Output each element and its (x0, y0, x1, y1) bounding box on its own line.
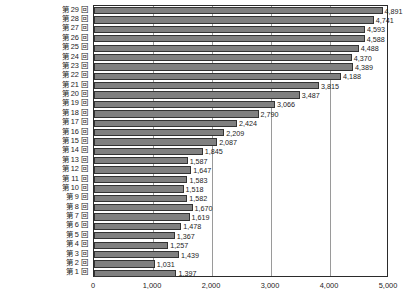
bar (94, 101, 275, 108)
bar (94, 63, 353, 70)
bar-row: 3,066 (94, 101, 387, 108)
bar (94, 138, 217, 145)
category-label: 第 15 回 (62, 137, 88, 144)
bar-value-label: 4,891 (383, 6, 403, 15)
bar-row: 1,478 (94, 223, 387, 230)
bar-row: 3,815 (94, 82, 387, 89)
bar (94, 45, 359, 52)
category-label: 第 1 回 (66, 268, 88, 275)
bar (94, 110, 259, 117)
category-label: 第 29 回 (62, 6, 88, 13)
bar-value-label: 4,741 (374, 16, 394, 25)
bar-row: 1,397 (94, 270, 387, 277)
category-label: 第 24 回 (62, 53, 88, 60)
bar (94, 120, 237, 127)
category-label: 第 22 回 (62, 71, 88, 78)
x-tick-label: 3,000 (261, 281, 280, 290)
bar-row: 1,583 (94, 176, 387, 183)
x-tick-label: 0 (91, 281, 95, 290)
category-label: 第 23 回 (62, 62, 88, 69)
bar-row: 4,370 (94, 54, 387, 61)
category-label: 第 28 回 (62, 15, 88, 22)
category-label: 第 21 回 (62, 81, 88, 88)
bar (94, 204, 193, 211)
bar (94, 223, 181, 230)
bar-value-label: 2,209 (224, 128, 244, 137)
category-label: 第 16 回 (62, 128, 88, 135)
category-label: 第 14 回 (62, 146, 88, 153)
bar-value-label: 1,587 (188, 156, 208, 165)
bar-row: 1,670 (94, 204, 387, 211)
x-tick-label: 5,000 (379, 281, 398, 290)
bar-value-label: 4,488 (359, 44, 379, 53)
bar (94, 232, 175, 239)
bar-value-label: 2,087 (217, 137, 237, 146)
bar-row: 1,031 (94, 260, 387, 267)
bar (94, 54, 352, 61)
bar-value-label: 2,424 (237, 119, 257, 128)
bar-value-label: 1,397 (176, 269, 196, 278)
bar-value-label: 3,815 (319, 81, 339, 90)
bar-row: 1,582 (94, 195, 387, 202)
category-label: 第 10 回 (62, 184, 88, 191)
category-label: 第 13 回 (62, 156, 88, 163)
value-axis-labels: 01,0002,0003,0004,0005,000 (0, 281, 407, 295)
bar (94, 213, 190, 220)
category-label: 第 17 回 (62, 118, 88, 125)
bar-row: 4,188 (94, 73, 387, 80)
bar-row: 1,439 (94, 251, 387, 258)
category-label: 第 25 回 (62, 43, 88, 50)
bar-row: 1,257 (94, 242, 387, 249)
bar (94, 82, 319, 89)
bar (94, 260, 155, 267)
bar-value-label: 4,593 (365, 25, 385, 34)
bar-row: 2,790 (94, 110, 387, 117)
bar-row: 2,087 (94, 138, 387, 145)
bar-row: 4,389 (94, 63, 387, 70)
category-label: 第 18 回 (62, 109, 88, 116)
bar-value-label: 1,647 (191, 166, 211, 175)
bar (94, 26, 365, 33)
bar-row: 1,647 (94, 166, 387, 173)
bar-value-label: 3,066 (275, 100, 295, 109)
bar-value-label: 1,439 (179, 250, 199, 259)
bar (94, 251, 179, 258)
bar (94, 157, 188, 164)
bar (94, 73, 341, 80)
bar (94, 195, 187, 202)
bar-value-label: 1,031 (155, 259, 175, 268)
bar (94, 35, 365, 42)
bar-row: 4,891 (94, 7, 387, 14)
bar-row: 4,741 (94, 16, 387, 23)
bar-row: 1,587 (94, 157, 387, 164)
category-label: 第 7 回 (66, 212, 88, 219)
bar-row: 3,487 (94, 91, 387, 98)
bar-value-label: 2,790 (259, 109, 279, 118)
category-label: 第 9 回 (66, 193, 88, 200)
bar-row: 4,588 (94, 35, 387, 42)
category-label: 第 27 回 (62, 24, 88, 31)
bar-value-label: 4,588 (365, 34, 385, 43)
bar (94, 91, 300, 98)
bar-row: 2,424 (94, 120, 387, 127)
bar-value-label: 1,367 (175, 231, 195, 240)
bar-row: 1,619 (94, 213, 387, 220)
bar-value-label: 3,487 (300, 91, 320, 100)
plot-area: 4,8914,7414,5934,5884,4884,3704,3894,188… (93, 5, 388, 277)
bar-value-label: 1,257 (168, 241, 188, 250)
x-tick-label: 4,000 (320, 281, 339, 290)
bar-series: 4,8914,7414,5934,5884,4884,3704,3894,188… (94, 6, 387, 276)
bar (94, 129, 224, 136)
category-label: 第 12 回 (62, 165, 88, 172)
category-label: 第 5 回 (66, 231, 88, 238)
bar (94, 7, 383, 14)
x-tick-label: 2,000 (202, 281, 221, 290)
category-label: 第 8 回 (66, 203, 88, 210)
bar-value-label: 1,518 (184, 184, 204, 193)
bar-value-label: 4,370 (352, 53, 372, 62)
category-axis-labels: 第 29 回第 28 回第 27 回第 26 回第 25 回第 24 回第 23… (0, 5, 91, 277)
bar (94, 242, 168, 249)
category-label: 第 20 回 (62, 90, 88, 97)
bar (94, 176, 187, 183)
bar-row: 1,845 (94, 148, 387, 155)
